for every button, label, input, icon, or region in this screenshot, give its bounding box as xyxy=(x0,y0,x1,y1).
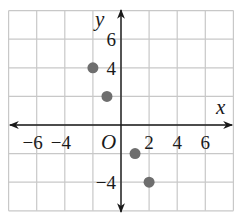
y-tick-labels: 64−4 xyxy=(96,29,117,193)
x-tick-label: 6 xyxy=(201,132,211,153)
y-tick-label: −4 xyxy=(96,172,117,193)
x-axis-label: x xyxy=(215,95,226,119)
x-tick-labels: −6−4246 xyxy=(23,132,210,153)
x-tick-label: 4 xyxy=(172,132,182,153)
data-point xyxy=(144,177,155,188)
data-point xyxy=(87,62,98,73)
data-point xyxy=(130,148,141,159)
coordinate-plane: x y O −6−4246 64−4 xyxy=(0,0,239,217)
data-point xyxy=(101,91,112,102)
y-axis-label: y xyxy=(93,7,105,31)
x-tick-label: −4 xyxy=(51,132,72,153)
y-tick-label: 6 xyxy=(107,29,117,50)
x-tick-label: −6 xyxy=(23,132,43,153)
y-tick-label: 4 xyxy=(107,58,117,79)
x-tick-label: 2 xyxy=(144,132,154,153)
origin-label: O xyxy=(101,130,116,154)
